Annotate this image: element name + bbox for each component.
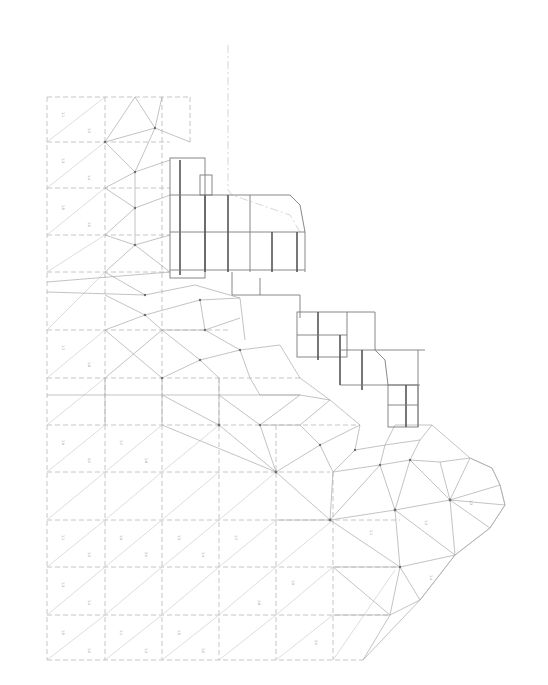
element-label: 1.3 [177, 535, 181, 540]
mesh-nodes [104, 127, 452, 568]
element-label: 1.6 [87, 648, 91, 653]
mesh-drawing: 1.1 1.2 1.3 1.4 1.5 1.6 1.7 1.8 1.9 2.0 … [0, 0, 548, 685]
element-label: 1.7 [234, 535, 238, 540]
element-label: 1.5 [61, 205, 65, 210]
element-label: 1.8 [144, 458, 148, 463]
element-label: 2.0 [87, 458, 91, 463]
element-label: 1.1 [369, 530, 373, 535]
element-label: 1.1 [119, 630, 123, 635]
element-label: 1.8 [87, 362, 91, 367]
element-label: 1.4 [201, 552, 205, 557]
regular-grid [47, 97, 400, 660]
reference-axis [228, 45, 300, 232]
element-label: 1.5 [61, 630, 65, 635]
element-label: 1.7 [61, 345, 65, 350]
element-label: 1.8 [257, 600, 261, 605]
element-label: 1.2 [144, 648, 148, 653]
element-label: 1.3 [61, 582, 65, 587]
element-label: 1.9 [291, 580, 295, 585]
element-labels: 1.1 1.2 1.3 1.4 1.5 1.6 1.7 1.8 1.9 2.0 … [61, 112, 473, 653]
element-label: 1.7 [119, 440, 123, 445]
element-label: 1.6 [201, 648, 205, 653]
element-label: 1.4 [87, 175, 91, 180]
triangulated-mesh [47, 97, 505, 660]
element-label: 1.5 [177, 630, 181, 635]
element-label: 1.2 [424, 520, 428, 525]
building-outline [170, 158, 425, 427]
element-label: 1.6 [87, 222, 91, 227]
element-label: 2.0 [144, 552, 148, 557]
element-label: 1.2 [87, 552, 91, 557]
element-label: 1.4 [87, 600, 91, 605]
element-label: 1.9 [61, 440, 65, 445]
element-label: 1.3 [469, 500, 473, 505]
element-label: 1.1 [61, 535, 65, 540]
element-label: 1.9 [119, 535, 123, 540]
element-label: 1.2 [87, 128, 91, 133]
element-label: 1.1 [61, 112, 65, 117]
element-label: 1.4 [429, 575, 433, 580]
element-label: 2.0 [314, 640, 318, 645]
element-label: 1.3 [61, 158, 65, 163]
